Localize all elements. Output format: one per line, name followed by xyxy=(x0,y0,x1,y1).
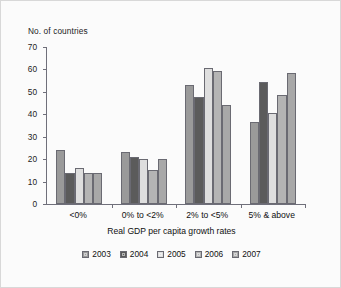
bar-2003-2% to <5% xyxy=(185,85,194,204)
x-axis-tick xyxy=(176,204,177,208)
bar-2007-2% to <5% xyxy=(222,105,231,204)
x-axis-category-label: <0% xyxy=(70,210,87,220)
legend-item-2004[interactable]: 2004 xyxy=(120,249,148,259)
y-axis-tick xyxy=(43,204,47,205)
bar-2006-0% to <2% xyxy=(148,170,157,204)
bar-2006-5% & above xyxy=(277,95,286,204)
legend-label: 2003 xyxy=(92,249,110,259)
x-axis-category-label: 5% & above xyxy=(249,210,295,220)
bar-2005-2% to <5% xyxy=(204,68,213,204)
bar-group xyxy=(112,47,177,204)
legend-item-2007[interactable]: 2007 xyxy=(232,249,260,259)
x-axis-category-label: 2% to <5% xyxy=(186,210,228,220)
y-axis-tick-label: 0 xyxy=(32,199,37,209)
bar-2006-2% to <5% xyxy=(213,71,222,204)
bar-2003-0% to <2% xyxy=(121,152,130,204)
legend-label: 2005 xyxy=(167,249,185,259)
x-axis-title: Real GDP per capita growth rates xyxy=(1,226,341,236)
legend-item-2005[interactable]: 2005 xyxy=(157,249,185,259)
chart-legend: 20032004200520062007 xyxy=(1,249,341,259)
bar-2004-5% & above xyxy=(259,82,268,204)
bar-group xyxy=(47,47,112,204)
legend-item-2003[interactable]: 2003 xyxy=(82,249,110,259)
y-axis-tick-label: 30 xyxy=(28,132,37,142)
bar-2005-0% to <2% xyxy=(139,159,148,204)
legend-label: 2006 xyxy=(205,249,223,259)
bar-2003-5% & above xyxy=(250,122,259,204)
x-axis-tick xyxy=(241,204,242,208)
y-axis-tick-label: 50 xyxy=(28,87,37,97)
y-axis-title: No. of countries xyxy=(28,26,88,36)
legend-item-2006[interactable]: 2006 xyxy=(195,249,223,259)
bar-2004-<0% xyxy=(65,173,74,204)
bar-2005-5% & above xyxy=(268,113,277,204)
legend-label: 2004 xyxy=(130,249,148,259)
legend-swatch-icon xyxy=(120,251,127,258)
bar-2007-5% & above xyxy=(287,73,296,204)
bar-group xyxy=(241,47,306,204)
legend-swatch-icon xyxy=(195,251,202,258)
bar-2006-<0% xyxy=(84,173,93,204)
legend-swatch-icon xyxy=(157,251,164,258)
y-axis-tick-label: 10 xyxy=(28,177,37,187)
y-axis-tick-label: 20 xyxy=(28,154,37,164)
x-axis-tick xyxy=(305,204,306,208)
legend-label: 2007 xyxy=(242,249,260,259)
legend-swatch-icon xyxy=(232,251,239,258)
x-axis-tick xyxy=(112,204,113,208)
bar-group xyxy=(176,47,241,204)
bar-2005-<0% xyxy=(75,168,84,204)
y-axis-tick-label: 70 xyxy=(28,42,37,52)
legend-swatch-icon xyxy=(82,251,89,258)
bar-2007-<0% xyxy=(93,173,102,204)
bar-2004-2% to <5% xyxy=(194,97,203,204)
plot-area: 010203040506070 xyxy=(46,47,305,205)
chart-figure: No. of countries 010203040506070 <0%0% t… xyxy=(0,0,341,288)
x-axis-category-label: 0% to <2% xyxy=(122,210,164,220)
y-axis-tick-label: 60 xyxy=(28,64,37,74)
y-axis-tick-label: 40 xyxy=(28,109,37,119)
bar-2003-<0% xyxy=(56,150,65,204)
bar-2004-0% to <2% xyxy=(130,157,139,204)
bar-2007-0% to <2% xyxy=(158,159,167,204)
